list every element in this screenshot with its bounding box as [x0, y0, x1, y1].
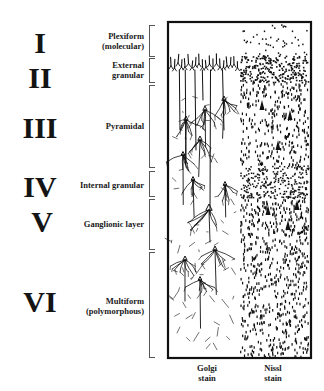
nissl-stain-label: Nissl stain [248, 363, 298, 383]
golgi-neurons [165, 54, 240, 350]
nissl-cell-bodies [240, 24, 309, 358]
panel-border [168, 22, 311, 358]
golgi-stain-label: Golgi stain [182, 363, 232, 383]
cortex-illustration [0, 0, 324, 391]
